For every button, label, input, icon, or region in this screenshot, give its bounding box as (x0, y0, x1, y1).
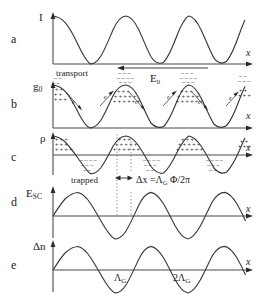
panel-e-plot (0, 0, 270, 298)
physics-figure: a I x b g0 x transport E0 – –– – – – –– (0, 0, 270, 298)
